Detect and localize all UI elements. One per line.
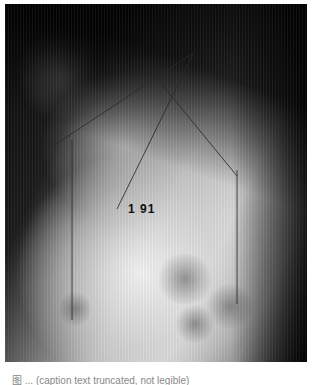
xray-figure: 1 91 <box>5 4 307 362</box>
figure-caption: 图 ... (caption text truncated, not legib… <box>12 372 302 385</box>
measurement-label: 1 91 <box>128 202 155 216</box>
measurement-line <box>50 52 195 148</box>
measurement-line <box>155 76 237 176</box>
measurement-line <box>117 54 193 209</box>
measurement-lines <box>5 4 307 362</box>
